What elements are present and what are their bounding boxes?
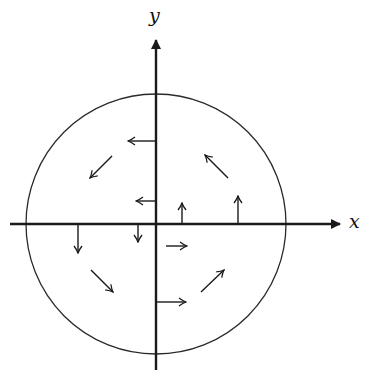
arrow-quad1-diag-icon [205,155,228,178]
vector-arrows [78,141,238,302]
arrow-quad4-diag-icon [201,270,224,292]
y-axis-label: y [149,6,160,25]
x-axis-label: x [349,212,360,231]
vector-field-diagram [0,0,376,385]
arrow-quad2-diag-icon [90,156,112,178]
arrow-quad3-diag-icon [91,270,113,292]
